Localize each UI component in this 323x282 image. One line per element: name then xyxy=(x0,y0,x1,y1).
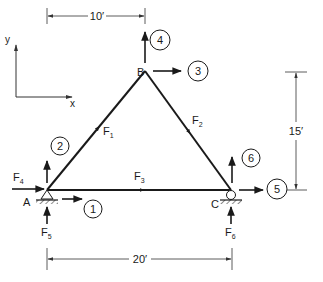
dimension-bottom: 20′ xyxy=(47,248,232,270)
dof-3: 3 xyxy=(153,61,208,81)
member-f1-direction-icon xyxy=(93,128,98,134)
dof-3-number: 3 xyxy=(195,65,201,77)
member-f2-direction-icon xyxy=(185,126,189,132)
y-axis-label: y xyxy=(5,34,10,45)
pin-support-a xyxy=(36,190,58,204)
dof-1: 1 xyxy=(62,199,102,218)
dimension-right-label: 15′ xyxy=(289,125,303,137)
reaction-f5-label: F5 xyxy=(41,226,52,240)
roller-support-c xyxy=(220,191,242,205)
node-b-label: B xyxy=(137,66,144,78)
member-f2-label: F2 xyxy=(192,114,203,128)
dimension-top-label: 10′ xyxy=(90,10,104,22)
reaction-f4: F4 xyxy=(12,171,44,189)
member-f3-label: F3 xyxy=(134,170,145,184)
dof-6-number: 6 xyxy=(248,152,254,164)
dof-1-number: 1 xyxy=(90,203,96,215)
node-a-label: A xyxy=(23,196,31,208)
reaction-f5: F5 xyxy=(41,207,52,240)
dimension-bottom-label: 20′ xyxy=(133,253,147,265)
reaction-f6: F6 xyxy=(225,207,236,240)
dof-4-number: 4 xyxy=(157,34,163,46)
dimension-right: 15′ xyxy=(285,72,307,190)
truss-diagram: y x 10′ 15′ 20′ F1 F2 F3 B A xyxy=(0,0,323,282)
dof-5-number: 5 xyxy=(274,183,280,195)
member-f1-label: F1 xyxy=(103,125,114,139)
reaction-f4-label: F4 xyxy=(13,171,24,185)
dof-6: 6 xyxy=(232,149,260,183)
dof-5: 5 xyxy=(239,179,287,199)
dof-2-number: 2 xyxy=(57,140,63,152)
reaction-f6-label: F6 xyxy=(225,226,236,240)
node-c-label: C xyxy=(211,198,219,210)
dimension-top: 10′ xyxy=(47,8,145,24)
coordinate-axes: y x xyxy=(5,34,75,109)
dof-4: 4 xyxy=(145,30,170,63)
x-axis-label: x xyxy=(70,98,75,109)
